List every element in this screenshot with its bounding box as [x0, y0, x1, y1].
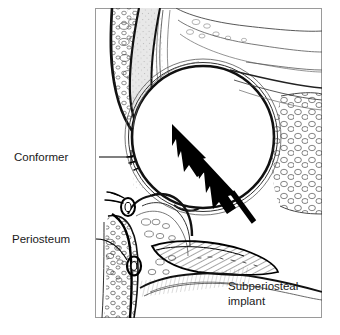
label-periosteum: Periosteum	[12, 233, 70, 245]
label-conformer: Conformer	[14, 151, 68, 163]
orbital-cross-section-illustration: Conformer Periosteum Subperiosteal impla…	[0, 0, 340, 335]
label-subperiosteal-implant-line1: Subperiosteal	[228, 280, 298, 292]
label-subperiosteal-implant-line2: implant	[228, 295, 266, 307]
